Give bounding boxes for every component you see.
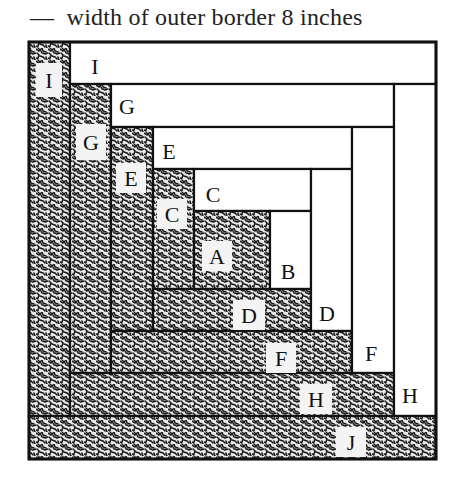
piece-label-a: A	[209, 244, 225, 269]
piece-label-d-right: D	[319, 301, 335, 326]
piece-e-left	[111, 127, 153, 331]
piece-label-e-left: E	[124, 166, 137, 191]
piece-label-h-right: H	[402, 383, 418, 408]
piece-d-bottom	[153, 289, 311, 331]
piece-f-bottom	[111, 331, 352, 373]
quilt-pieces	[29, 42, 436, 459]
piece-h-right	[394, 84, 436, 416]
piece-label-b: B	[281, 259, 296, 284]
piece-label-g-left: G	[83, 130, 99, 155]
piece-label-c-left: C	[165, 202, 180, 227]
piece-label-i-top: I	[91, 54, 98, 79]
piece-e-top	[153, 127, 352, 169]
piece-g-top	[111, 84, 394, 127]
piece-label-d-bottom: D	[241, 303, 257, 328]
piece-i-left	[29, 42, 70, 416]
piece-h-bottom	[70, 373, 394, 416]
piece-label-f-right: F	[365, 341, 377, 366]
piece-label-c-top: C	[206, 182, 221, 207]
piece-label-f-bottom: F	[275, 346, 287, 371]
piece-label-i-left: I	[45, 68, 52, 93]
piece-label-g-top: G	[119, 94, 135, 119]
piece-j-bottom	[29, 416, 436, 459]
piece-label-h-bottom: H	[308, 387, 324, 412]
log-cabin-diagram: IIGGEECCABDDFFHHJ	[0, 0, 456, 477]
piece-label-e-top: E	[162, 139, 175, 164]
piece-label-j-bottom: J	[347, 430, 356, 455]
piece-i-top	[70, 42, 436, 84]
piece-f-right	[352, 127, 394, 373]
